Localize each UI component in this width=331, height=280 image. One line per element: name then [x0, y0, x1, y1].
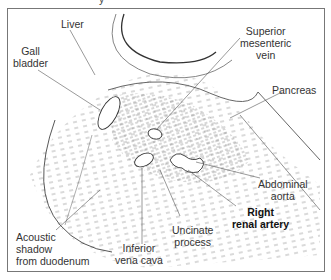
- label-line: Uncinate: [172, 224, 213, 236]
- label-liver: Liver: [61, 18, 84, 30]
- label-line: from duodenum: [16, 255, 90, 267]
- label-pancreas: Pancreas: [272, 84, 316, 96]
- label-line: vena cava: [115, 254, 163, 266]
- label-line: Gall: [13, 45, 48, 57]
- label-line: process: [172, 236, 213, 248]
- label-line: bladder: [13, 57, 48, 69]
- label-line: Superior: [240, 25, 291, 37]
- label-text: Pancreas: [272, 84, 316, 96]
- label-line: shadow: [16, 243, 90, 255]
- label-line: vein: [240, 49, 291, 61]
- label-text: Liver: [61, 18, 84, 30]
- label-inferior-vena-cava: Inferior vena cava: [115, 242, 163, 266]
- label-abdominal-aorta: Abdominal aorta: [258, 178, 308, 202]
- label-line: renal artery: [232, 218, 289, 230]
- label-superior-mesenteric-vein: Superior mesenteric vein: [240, 25, 291, 61]
- label-line: mesenteric: [240, 37, 291, 49]
- label-line: Right: [232, 206, 289, 218]
- label-line: Inferior: [115, 242, 163, 254]
- label-right-renal-artery: Right renal artery: [232, 206, 289, 230]
- label-acoustic-shadow: Acoustic shadow from duodenum: [16, 231, 90, 267]
- label-line: aorta: [258, 190, 308, 202]
- label-uncinate-process: Uncinate process: [172, 224, 213, 248]
- stomach-arcs: [112, 14, 232, 78]
- label-line: Abdominal: [258, 178, 308, 190]
- label-line: Acoustic: [16, 231, 90, 243]
- label-gall-bladder: Gall bladder: [13, 45, 48, 69]
